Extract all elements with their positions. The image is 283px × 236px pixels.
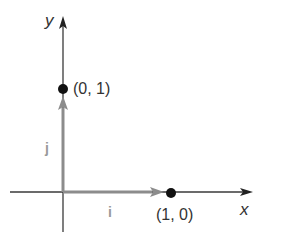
vector-i [63,187,164,197]
vector-j-label: j [45,141,49,155]
point-0-1-label: (0, 1) [73,81,110,97]
point-1-0-marker [166,188,176,198]
y-axis-label: y [45,12,54,29]
point-0-1-marker [58,84,68,94]
point-1-0-label: (1, 0) [156,207,193,223]
vector-i-label: i [108,205,112,219]
vector-j [58,96,68,192]
x-axis-label: x [240,201,249,218]
